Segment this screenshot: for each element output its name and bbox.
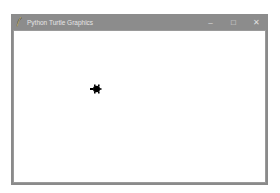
minimize-button[interactable]: – (199, 14, 222, 30)
turtle-icon (89, 81, 103, 99)
turtle-graphics-window: Python Turtle Graphics – □ ✕ (11, 14, 268, 185)
maximize-button[interactable]: □ (222, 14, 245, 30)
window-controls: – □ ✕ (199, 14, 268, 30)
turtle-canvas[interactable] (13, 30, 266, 183)
feather-icon (14, 17, 24, 27)
maximize-icon: □ (231, 18, 236, 27)
close-button[interactable]: ✕ (245, 14, 268, 30)
window-title: Python Turtle Graphics (27, 19, 93, 26)
minimize-icon: – (208, 18, 212, 27)
close-icon: ✕ (253, 18, 260, 27)
title-bar[interactable]: Python Turtle Graphics – □ ✕ (11, 14, 268, 30)
